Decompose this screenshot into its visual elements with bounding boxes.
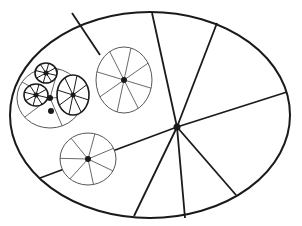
main-hub [174, 124, 181, 131]
wheel-hub [85, 156, 91, 162]
large-upper-wheel [96, 47, 152, 113]
wheel-diagram [0, 0, 302, 226]
main-spoke [177, 127, 236, 195]
wheel-hub [34, 93, 39, 98]
lower-wheel [60, 133, 116, 185]
small-wheel-top [35, 63, 57, 83]
medium-wheel-right [57, 75, 89, 115]
cluster-junction-hub [48, 108, 54, 114]
wheel-hub [121, 77, 127, 83]
wheel-hub [71, 93, 76, 98]
wheel-hub [44, 71, 49, 76]
main-spoke [177, 92, 287, 127]
diagram-canvas [0, 0, 302, 226]
main-spoke [152, 13, 177, 127]
small-wheel-left [24, 84, 48, 106]
main-spoke [177, 127, 185, 218]
wheels-group [17, 47, 152, 185]
main-spoke [177, 23, 217, 127]
